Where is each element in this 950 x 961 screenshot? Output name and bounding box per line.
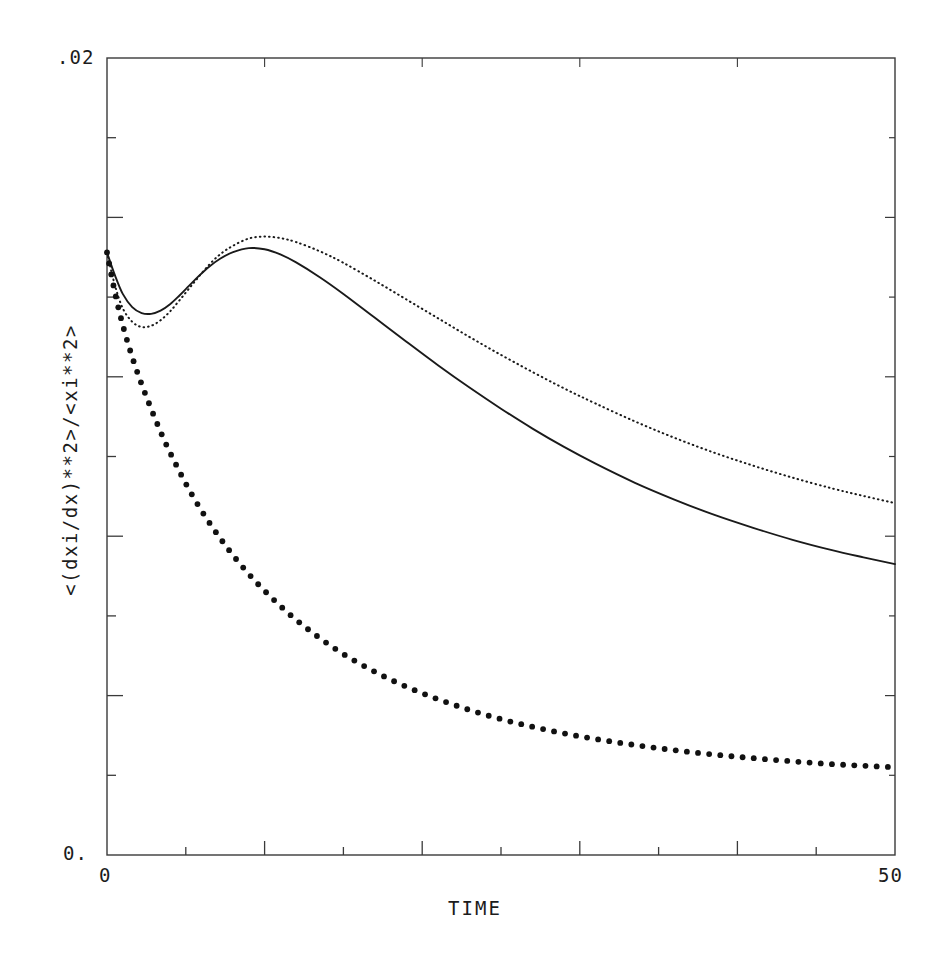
figure-canvas: .02 0. 0 50 TIME <(dxi/dx)**2>/<xi**2> bbox=[0, 0, 950, 961]
x-axis-max-tick-label: 50 bbox=[878, 864, 903, 886]
axis-frame bbox=[107, 58, 895, 855]
axis-ticks bbox=[107, 58, 895, 855]
x-axis-title: TIME bbox=[0, 897, 950, 919]
plot-svg bbox=[0, 0, 950, 961]
y-axis-min-tick-label: 0. bbox=[63, 842, 88, 864]
series-solid-curve bbox=[107, 248, 895, 564]
x-axis-min-tick-label: 0 bbox=[99, 864, 111, 886]
series-bold-dotted-curve bbox=[104, 250, 891, 770]
y-axis-max-tick-label: .02 bbox=[57, 46, 94, 68]
y-axis-title: <(dxi/dx)**2>/<xi**2> bbox=[59, 180, 81, 740]
series-fine-dotted-curve bbox=[107, 237, 895, 504]
series-layer bbox=[104, 237, 895, 770]
